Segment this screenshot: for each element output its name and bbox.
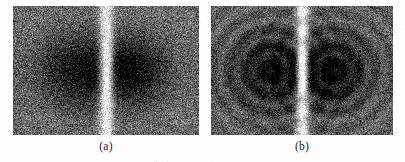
panel-a-canvas bbox=[13, 6, 199, 135]
panel-b-image bbox=[211, 6, 393, 135]
figure-container: (a) (b) bbox=[0, 0, 405, 162]
panel-b-canvas bbox=[211, 6, 393, 135]
panel-a-image bbox=[13, 6, 199, 135]
panel-b-caption: (b) bbox=[282, 139, 322, 153]
panel-a-caption: (a) bbox=[86, 139, 126, 153]
